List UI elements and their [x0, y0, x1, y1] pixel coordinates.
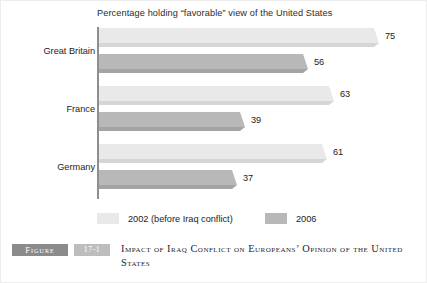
category-label-germany: Germany [57, 162, 95, 172]
bar-top-face [99, 170, 237, 185]
bar-group-germany: Germany 61 37 [1, 143, 427, 201]
legend-swatch-icon-2006 [265, 213, 287, 224]
bar-france-2002 [99, 86, 334, 105]
bar-bevel-face [99, 69, 308, 73]
legend-entry-2002: 2002 (before Iraq conflict) [97, 213, 233, 224]
bar-value-germany-2006: 37 [243, 173, 253, 183]
bar-group-france: France 63 39 [1, 85, 427, 143]
bar-value-great-britain-2002: 75 [385, 31, 395, 41]
bar-group-great-britain: Great Britain 75 56 [1, 27, 427, 85]
bar-value-great-britain-2006: 56 [314, 57, 324, 67]
bar-germany-2002 [99, 144, 327, 163]
bar-great-britain-2002 [99, 28, 379, 47]
legend-swatch-icon-2002 [97, 213, 119, 224]
bar-bevel-face [99, 101, 334, 105]
legend-entry-2006: 2006 [265, 213, 316, 224]
bar-top-face [99, 54, 308, 69]
bar-value-france-2006: 39 [251, 115, 261, 125]
bar-value-germany-2002: 61 [333, 147, 343, 157]
bar-bevel-face [99, 185, 237, 189]
bar-great-britain-2006 [99, 54, 308, 73]
bar-bevel-face [99, 159, 327, 163]
bar-top-face [99, 86, 334, 101]
figure-number-badge: 17-1 [74, 244, 110, 256]
bar-bevel-face [99, 43, 379, 47]
bar-top-face [99, 28, 379, 43]
category-label-great-britain: Great Britain [43, 46, 95, 56]
bar-germany-2006 [99, 170, 237, 189]
bar-top-face [99, 144, 327, 159]
bar-value-france-2002: 63 [340, 89, 350, 99]
chart-title: Percentage holding “favorable” view of t… [97, 8, 332, 18]
legend-label-2006: 2006 [296, 214, 316, 224]
chart-plot-area: Great Britain 75 56 France 63 [1, 27, 427, 205]
figure-badge: Figure [12, 244, 68, 256]
figure-caption-text: Impact of Iraq Conflict on Europeans’ Op… [121, 242, 413, 269]
figure-caption: Figure 17-1 Impact of Iraq Conflict on E… [12, 244, 417, 276]
figure-container: Percentage holding “favorable” view of t… [0, 0, 427, 283]
category-label-france: France [66, 104, 95, 114]
bar-france-2006 [99, 112, 245, 131]
legend-label-2002: 2002 (before Iraq conflict) [128, 214, 233, 224]
bar-top-face [99, 112, 245, 127]
bar-bevel-face [99, 127, 245, 131]
